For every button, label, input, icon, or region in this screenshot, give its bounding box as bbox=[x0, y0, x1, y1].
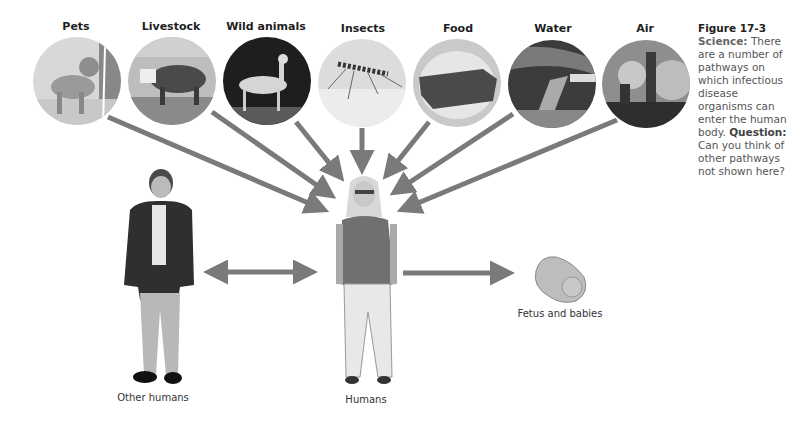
dog-photo-icon bbox=[33, 37, 121, 125]
figure-text: There are a number of pathways on which … bbox=[698, 35, 787, 138]
caption-humans: Humans bbox=[326, 394, 406, 405]
label-insects: Insects bbox=[318, 22, 408, 35]
figure-question-label: Question: bbox=[729, 126, 786, 138]
human-figure bbox=[328, 172, 408, 390]
label-air: Air bbox=[600, 22, 690, 35]
caption-other-humans: Other humans bbox=[108, 392, 198, 403]
other-human-figure bbox=[118, 165, 198, 387]
caption-fetus-and-babies: Fetus and babies bbox=[510, 308, 610, 319]
figure-caption: Figure 17-3 Science: There are a number … bbox=[698, 22, 788, 178]
cow-photo-icon bbox=[128, 37, 216, 125]
arrow-wild-animals bbox=[296, 122, 338, 174]
figure-tag: Science: bbox=[698, 35, 748, 47]
deer-photo-icon bbox=[223, 37, 311, 125]
figure-question: Can you think of other pathways not show… bbox=[698, 139, 785, 177]
figure-number: Figure 17-3 bbox=[698, 22, 788, 35]
label-water: Water bbox=[508, 22, 598, 35]
label-wild-animals: Wild animals bbox=[221, 20, 311, 33]
meat-photo-icon bbox=[413, 39, 501, 127]
smokestack-photo-icon bbox=[602, 40, 690, 128]
label-pets: Pets bbox=[31, 20, 121, 33]
label-food: Food bbox=[413, 22, 503, 35]
label-livestock: Livestock bbox=[126, 20, 216, 33]
arrow-air bbox=[406, 120, 617, 208]
mosquito-photo-icon bbox=[318, 39, 406, 127]
arrow-food bbox=[389, 122, 429, 172]
fetus-figure bbox=[526, 253, 590, 305]
sewage-pipe-photo-icon bbox=[508, 40, 596, 128]
